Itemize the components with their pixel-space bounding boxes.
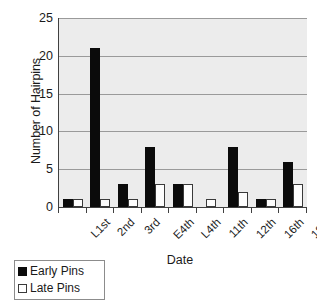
bar-late <box>266 199 276 207</box>
x-tick-label: 12th <box>254 216 278 240</box>
y-tick-label: 5 <box>20 162 53 176</box>
bar-group <box>280 18 308 207</box>
bar-group <box>59 18 87 207</box>
bar-late <box>183 184 193 207</box>
x-axis-tick-labels: L1st2nd3rdE4thL4th11th12th16th18th <box>58 212 307 252</box>
bar-late <box>238 192 248 207</box>
y-tick-label: 20 <box>20 49 53 63</box>
x-tick-label: L4th <box>199 216 223 240</box>
chart-legend: Early PinsLate Pins <box>14 260 105 300</box>
legend-item: Early Pins <box>18 263 101 280</box>
bar-early <box>283 162 293 207</box>
y-tick-label: 25 <box>20 11 53 25</box>
y-axis-tick-labels: 0510152025 <box>20 11 53 207</box>
x-tick-label: 2nd <box>115 216 137 238</box>
y-tick-label: 0 <box>20 200 53 214</box>
bar-late <box>100 199 110 207</box>
x-tick-label: 18th <box>309 216 317 240</box>
x-axis-title: Date <box>120 253 240 267</box>
bar-group <box>114 18 142 207</box>
bar-late <box>206 199 216 207</box>
x-tick-label: E4th <box>171 216 196 241</box>
legend-label: Late Pins <box>30 282 80 295</box>
bar-early <box>145 147 155 207</box>
bar-early <box>63 199 73 207</box>
bar-late <box>293 184 303 207</box>
x-tick-label: 3rd <box>142 216 162 236</box>
x-tick-label: L1st <box>88 216 112 240</box>
bars-layer <box>59 18 307 207</box>
bar-group <box>252 18 280 207</box>
bar-late <box>128 199 138 207</box>
bar-late <box>155 184 165 207</box>
x-tick-label: 11th <box>226 216 250 240</box>
bar-group <box>224 18 252 207</box>
bar-early <box>173 184 183 207</box>
bar-early <box>228 147 238 207</box>
bar-early <box>90 48 100 207</box>
bar-group <box>169 18 197 207</box>
legend-label: Early Pins <box>30 265 84 278</box>
bar-early <box>118 184 128 207</box>
y-tick-label: 15 <box>20 87 53 101</box>
bar-late <box>73 199 83 207</box>
legend-item: Late Pins <box>18 280 101 297</box>
bar-chart: Number of Hairpins 0510152025 L1st2nd3rd… <box>0 0 317 304</box>
y-tick-label: 10 <box>20 124 53 138</box>
legend-swatch-late <box>18 284 27 293</box>
bar-group <box>197 18 225 207</box>
x-tick-label: 16th <box>282 216 306 240</box>
bar-group <box>142 18 170 207</box>
bar-group <box>87 18 115 207</box>
plot-area <box>58 18 307 208</box>
legend-swatch-early <box>18 267 27 276</box>
bar-early <box>256 199 266 207</box>
